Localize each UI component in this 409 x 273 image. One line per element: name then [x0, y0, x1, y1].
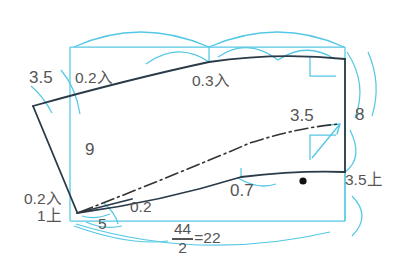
label-right-height: 8 — [355, 106, 364, 123]
cap-arc-left — [146, 52, 209, 64]
label-underarm-curve: 0.7 — [230, 182, 254, 199]
label-side-height: 9 — [85, 141, 94, 158]
label-right-arrow-measure: 3.5 — [290, 107, 314, 124]
fraction-stack: 44 2 — [172, 221, 193, 256]
fraction-equals: =22 — [194, 229, 220, 247]
fraction-denominator: 2 — [176, 240, 189, 256]
label-hem-ease: 0.2 — [130, 199, 152, 215]
label-ease-left: 0.2入 — [75, 70, 113, 86]
label-hem-start: 5 — [98, 216, 107, 232]
center-dash-dot-line — [80, 124, 340, 212]
measure-arrow-shaft — [312, 124, 340, 158]
arc-right-bottom — [352, 196, 362, 236]
underarm-curve-line — [77, 172, 345, 213]
balance-dot-marker — [299, 177, 306, 184]
fraction-numerator: 44 — [172, 221, 193, 237]
bottom-caption — [0, 258, 409, 273]
upper-arc-left — [74, 32, 209, 47]
cap-arc-right — [278, 50, 335, 60]
label-ease-center: 0.3入 — [192, 73, 230, 89]
right-angle-symbol-top — [310, 57, 336, 76]
pattern-diagram: 3.5 0.2入 0.3入 9 8 3.5 3.5上 0.7 0.2 5 0.2… — [0, 0, 409, 273]
bottom-measure-arc-2 — [74, 226, 168, 242]
label-left-shoulder-measure: 3.5 — [29, 69, 53, 86]
label-bottom-left-ease: 0.2入 — [24, 191, 62, 207]
label-width-fraction: 44 2 =22 — [172, 221, 221, 256]
upper-arc-right — [209, 32, 344, 47]
sweep-arc-left — [368, 52, 376, 116]
label-right-bottom-note: 3.5上 — [345, 172, 383, 188]
arc-right-lower — [345, 130, 356, 172]
label-bottom-left-raise: 1上 — [37, 208, 62, 224]
